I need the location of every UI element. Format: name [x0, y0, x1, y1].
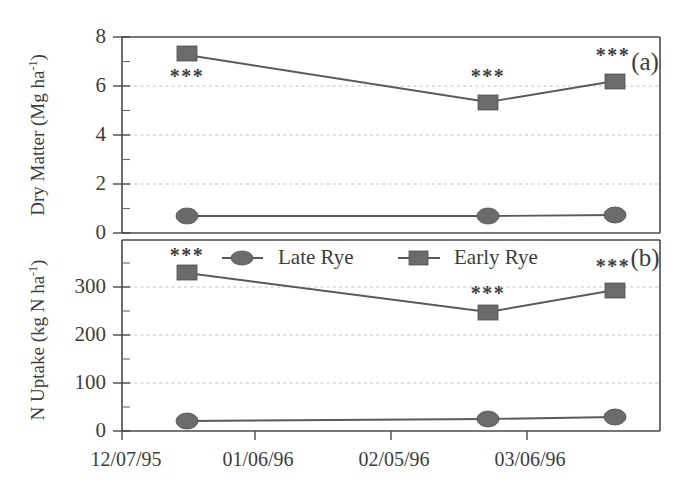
panel-a-series-late-rye	[176, 207, 626, 224]
svg-text:N Uptake (kg N ha-1): N Uptake (kg N ha-1)	[26, 260, 49, 421]
panel-b-early-rye-line	[187, 273, 615, 312]
panel-b-late-rye-marker-3	[604, 409, 626, 425]
panel-a-significance-3: ***	[596, 44, 631, 66]
x-axis: 12/07/95 01/06/96 02/05/96 03/06/96	[90, 431, 565, 470]
panel-b-y-axis-title: N Uptake (kg N ha-1)	[26, 260, 49, 421]
panel-a-ylabel-sup: -1	[26, 61, 40, 71]
panel-b-gridlines	[122, 287, 660, 383]
panel-a-early-rye-marker-1	[177, 46, 197, 61]
panel-a-significance-2: ***	[471, 65, 506, 87]
ytick-label-b-0: 0	[96, 418, 107, 442]
ytick-label-b-200: 200	[75, 322, 107, 346]
panel-a-y-axis-title: Dry Matter (Mg ha-1)	[26, 54, 49, 215]
legend-early-rye-marker	[409, 251, 428, 265]
panel-b-ylabel-main: N Uptake (kg N ha	[27, 275, 49, 420]
panel-a-label: (a)	[631, 48, 659, 76]
legend: Late Rye Early Rye	[222, 245, 538, 269]
xtick-label-1: 12/07/95	[90, 448, 161, 470]
panel-a: 8 6 4 2 0 Dry Matter (Mg ha-1) *** *** *	[26, 24, 660, 244]
panel-b-label: (b)	[630, 244, 659, 272]
chart-svg: 8 6 4 2 0 Dry Matter (Mg ha-1) *** *** *	[0, 0, 697, 500]
legend-late-rye-label: Late Rye	[278, 245, 354, 269]
ytick-label-b-100: 100	[75, 370, 107, 394]
panel-a-early-rye-line	[187, 55, 615, 102]
ytick-label-a-6: 6	[96, 73, 107, 97]
panel-a-early-rye-marker-3	[605, 74, 625, 89]
x-axis-ticks	[122, 431, 527, 440]
ytick-label-a-0: 0	[96, 220, 107, 244]
panel-a-late-rye-marker-3	[604, 207, 626, 223]
panel-b-significance-3: ***	[596, 255, 631, 277]
panel-a-gridlines	[122, 86, 660, 184]
ytick-label-a-4: 4	[96, 122, 107, 146]
panel-a-late-rye-marker-1	[176, 208, 198, 224]
panel-b-early-rye-marker-2	[478, 305, 498, 320]
xtick-label-3: 02/05/96	[358, 448, 429, 470]
svg-text:Dry Matter (Mg ha-1): Dry Matter (Mg ha-1)	[26, 54, 49, 215]
xtick-label-4: 03/06/96	[494, 448, 565, 470]
panel-b-late-rye-line	[187, 417, 615, 421]
panel-a-late-rye-marker-2	[477, 208, 499, 224]
panel-b-series-late-rye	[176, 409, 626, 429]
panel-b-ylabel-tail: )	[27, 260, 49, 266]
panel-a-series-early-rye	[177, 46, 625, 110]
figure-container: 8 6 4 2 0 Dry Matter (Mg ha-1) *** *** *	[0, 0, 697, 500]
panel-a-significance-1: ***	[170, 65, 205, 87]
panel-b-significance-1: ***	[170, 244, 205, 266]
panel-a-late-rye-line	[187, 215, 615, 216]
xtick-label-2: 01/06/96	[222, 448, 293, 470]
legend-late-rye-marker	[231, 251, 253, 265]
legend-entry-early-rye[interactable]: Early Rye	[398, 245, 538, 269]
legend-early-rye-label: Early Rye	[454, 245, 538, 269]
panel-a-early-rye-marker-2	[478, 95, 498, 110]
legend-entry-late-rye[interactable]: Late Rye	[222, 245, 354, 269]
panel-b-early-rye-marker-1	[177, 265, 197, 280]
ytick-label-b-300: 300	[75, 274, 107, 298]
panel-b-significance-2: ***	[471, 282, 506, 304]
panel-b-series-early-rye	[177, 265, 625, 320]
ytick-label-a-2: 2	[96, 171, 107, 195]
panel-a-ylabel-tail: )	[27, 54, 49, 60]
panel-b-late-rye-marker-2	[477, 411, 499, 427]
panel-b-late-rye-marker-1	[176, 413, 198, 429]
panel-a-ylabel-main: Dry Matter (Mg ha	[27, 70, 49, 216]
panel-b-early-rye-marker-3	[605, 283, 625, 298]
panel-b: 300 200 100 0 N Uptake (kg N ha-1) *** *…	[26, 240, 660, 442]
ytick-label-a-8: 8	[96, 24, 107, 48]
panel-b-ylabel-sup: -1	[26, 266, 40, 276]
